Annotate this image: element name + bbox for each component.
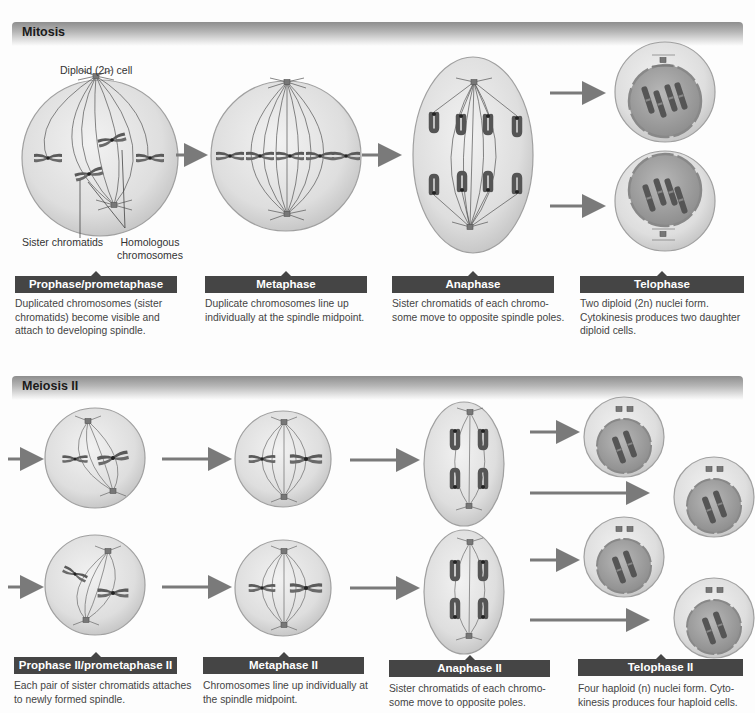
- annotation-homologous-line1: Homologous: [117, 236, 183, 249]
- anaphase2-cell-top: [424, 402, 504, 526]
- prophase2-cell-top: [45, 408, 145, 508]
- annotation-homologous-line2: chromosomes: [117, 249, 183, 262]
- prophase2-cell-bottom: [45, 535, 145, 635]
- stage-desc-metaphase2: Chromosomes line up individually at the …: [203, 679, 383, 706]
- telophase-cell-top: [615, 42, 715, 142]
- stage-desc-metaphase: Duplicate chromosomes line up individual…: [205, 297, 385, 324]
- metaphase2-cell-top: [235, 411, 331, 507]
- anaphase-cell: [413, 57, 533, 253]
- stage-desc-prophase2: Each pair of sister chromatids attaches …: [14, 679, 204, 706]
- stage-label-telophase2: Telophase II: [578, 659, 743, 676]
- stage-desc-anaphase2: Sister chromatids of each chromo- some m…: [389, 682, 569, 709]
- stage-label-prophase: Prophase/prometaphase: [15, 276, 177, 293]
- metaphase-cell: [211, 78, 361, 231]
- telophase2-cell-4: [674, 578, 754, 658]
- stage-label-metaphase2: Metaphase II: [203, 657, 364, 674]
- cell-division-diagram: [0, 0, 755, 713]
- telophase2-cell-2: [674, 457, 754, 537]
- telophase2-cell-1: [584, 397, 664, 477]
- telophase-cell-bottom: [615, 151, 715, 251]
- annotation-diploid-cell: Diploid (2n) cell: [60, 64, 132, 77]
- annotation-sister-chromatids: Sister chromatids: [22, 236, 103, 249]
- stage-label-telophase: Telophase: [580, 276, 744, 293]
- telophase2-cell-3: [584, 517, 664, 597]
- prophase-cell: [22, 70, 178, 238]
- stage-label-metaphase: Metaphase: [205, 276, 367, 293]
- stage-desc-prophase: Duplicated chromosomes (sister chromatid…: [15, 297, 195, 338]
- metaphase2-cell-bottom: [235, 540, 331, 636]
- anaphase2-cell-bottom: [424, 530, 504, 654]
- stage-label-anaphase: Anaphase: [392, 276, 554, 293]
- stage-desc-telophase2: Four haploid (n) nuclei form. Cyto- kine…: [578, 682, 755, 709]
- stage-label-prophase2: Prophase II/prometaphase II: [14, 657, 177, 674]
- annotation-homologous-chromosomes: Homologous chromosomes: [117, 236, 183, 262]
- stage-label-anaphase2: Anaphase II: [389, 660, 550, 677]
- stage-desc-anaphase: Sister chromatids of each chromo- some m…: [392, 297, 572, 324]
- stage-desc-telophase: Two diploid (2n) nuclei form. Cytokinesi…: [580, 297, 755, 338]
